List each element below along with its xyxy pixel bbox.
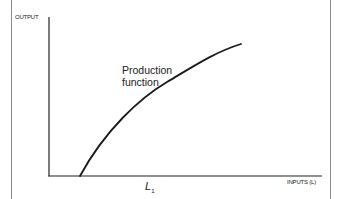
x-tick-l1: L1 xyxy=(145,180,154,194)
curve-label-line1: Production xyxy=(122,64,172,76)
curve-label-line2: function xyxy=(122,76,172,88)
diagram-canvas: OUTPUT INPUTS (L) Production function L1 xyxy=(0,0,338,199)
x-axis-label: INPUTS (L) xyxy=(287,179,316,185)
x-tick-subscript: 1 xyxy=(151,188,154,194)
curve-label: Production function xyxy=(122,64,172,88)
production-function-plot xyxy=(0,0,338,199)
y-axis-label: OUTPUT xyxy=(15,14,38,20)
